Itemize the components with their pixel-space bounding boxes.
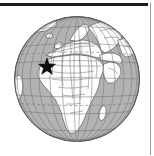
globe-container xyxy=(0,0,154,156)
globe-graphic xyxy=(0,0,154,156)
globe-figure xyxy=(0,0,154,156)
right-rule-divider xyxy=(150,3,151,155)
